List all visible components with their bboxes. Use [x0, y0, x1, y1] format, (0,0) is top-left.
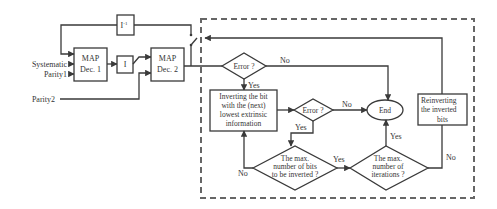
input-parity1: Parity1 [44, 70, 74, 79]
max-iterations-check: The max. number of iterations ? [350, 146, 428, 190]
switch-to-deinterleaver-line [134, 25, 191, 34]
feedback-switch [190, 34, 197, 47]
max-bits-check: The max. number of bits to be inverted ? [253, 146, 337, 190]
max-iter-yes-label: Yes [390, 132, 402, 141]
parity1-label: Parity1 [44, 70, 67, 79]
map-decoder-2: MAP Dec. 2 [151, 48, 184, 81]
max-bits-yes-label: Yes [333, 155, 345, 164]
error2-no-label: No [342, 100, 352, 109]
error2-label: Error ? [302, 106, 324, 115]
error1-label: Error ? [233, 62, 255, 71]
interleaver-label: I [124, 60, 127, 69]
error-check-2: Error ? [294, 99, 333, 121]
error2-yes-label: Yes [295, 123, 307, 132]
systematic-label: Systematic [32, 60, 68, 69]
error1-no-arrow [266, 66, 388, 100]
max-iter-no-label: No [446, 153, 456, 162]
inverting-line1: Inverting the bit [219, 92, 268, 101]
inverting-line4: information [226, 119, 262, 128]
max-bits-line3: to be inverted ? [272, 170, 319, 179]
turbo-decoder-diagram: Systematic Parity1 Parity2 MAP Dec. 1 I … [0, 0, 497, 209]
parity2-label: Parity2 [32, 95, 55, 104]
map-dec2-line2: Dec. 2 [157, 65, 178, 74]
map-dec1-line2: Dec. 1 [80, 65, 101, 74]
map-decoder-1: MAP Dec. 1 [74, 48, 107, 81]
max-bits-no-arrow [244, 131, 253, 168]
deinterleaver: I-1 [117, 15, 134, 35]
reinverting-line2: the inverted [421, 105, 457, 114]
max-iter-no-line [428, 125, 442, 168]
end-label: End [379, 106, 391, 115]
error1-no-label: No [280, 56, 290, 65]
reinverting-line3: bits [437, 115, 448, 124]
end-terminal: End [367, 100, 403, 120]
inverting-line2: with the (next) [221, 101, 266, 110]
reinverting-box: Reinverting the inverted bits [418, 94, 467, 125]
interleaver-to-dec2-arrow [133, 57, 151, 64]
inverting-line3: lowest extrinsic [220, 110, 268, 119]
input-systematic: Systematic [32, 60, 74, 69]
inverting-bit-box: Inverting the bit with the (next) lowest… [210, 90, 277, 131]
reinverting-line1: Reinverting [421, 96, 457, 105]
error-check-1: Error ? [222, 53, 266, 79]
map-dec2-line1: MAP [159, 54, 177, 63]
error1-yes-label: Yes [248, 81, 260, 90]
interleaver: I [117, 56, 133, 73]
map-dec1-line1: MAP [82, 54, 100, 63]
max-bits-no-label: No [238, 169, 248, 178]
max-iter-line3: iterations ? [371, 170, 405, 179]
